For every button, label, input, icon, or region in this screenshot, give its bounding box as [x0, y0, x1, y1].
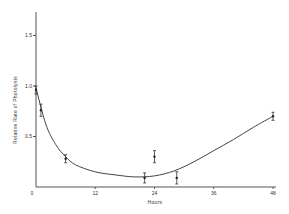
x-tick-label: 0 — [31, 190, 34, 196]
x-axis-title: Hours — [148, 199, 163, 205]
point-marker — [40, 109, 42, 111]
y-tick-label: 1.5 — [25, 32, 32, 38]
data-point — [272, 112, 275, 120]
fitted-curve — [36, 88, 273, 177]
x-tick-label: 36 — [211, 190, 217, 196]
point-marker — [35, 89, 37, 91]
data-point — [175, 172, 178, 184]
x-tick-label: 12 — [92, 190, 98, 196]
x-tick-label: 24 — [152, 190, 158, 196]
point-marker — [64, 158, 66, 160]
point-marker — [143, 177, 145, 179]
fit-curve-path — [36, 88, 273, 177]
y-axis-title: Relative Rate of Photolysis — [12, 76, 18, 144]
point-marker — [272, 115, 274, 117]
data-point — [39, 104, 42, 116]
y-tick-label: 0.5 — [25, 133, 32, 139]
x-tick-label: 48 — [270, 190, 276, 196]
point-marker — [176, 177, 178, 179]
data-points — [35, 86, 275, 184]
data-point — [143, 173, 146, 183]
axes: 0122436480.51.01.5 — [25, 12, 276, 196]
chart: 0122436480.51.01.5 Hours Relative Rate o… — [0, 0, 289, 214]
y-tick-label: 1.0 — [25, 83, 32, 89]
point-marker — [153, 156, 155, 158]
data-point — [153, 151, 156, 163]
